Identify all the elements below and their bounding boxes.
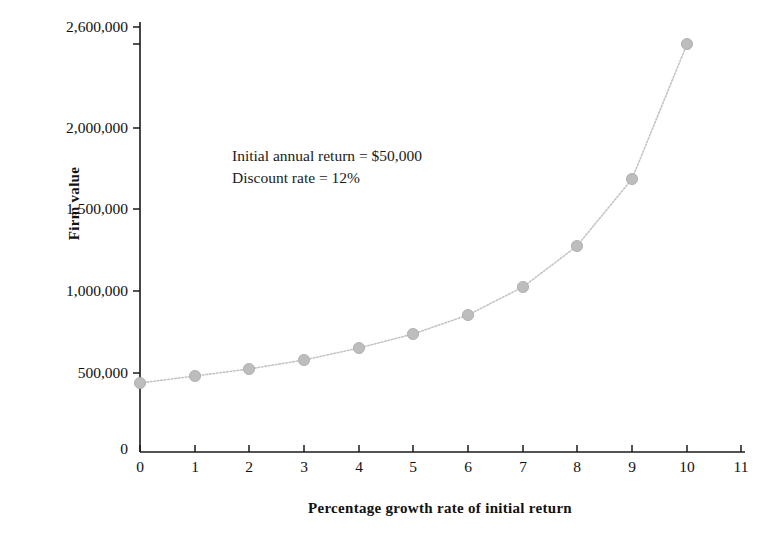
y-tick-label-1000000: 1,000,000 — [10, 282, 128, 300]
x-tick-label-1: 1 — [181, 458, 209, 476]
data-point — [517, 281, 528, 292]
data-point — [462, 309, 473, 320]
annotation-initial-return: Initial annual return = $50,000 — [232, 145, 422, 167]
x-axis-ticks — [140, 445, 741, 452]
x-tick-label-4: 4 — [345, 458, 373, 476]
x-tick-label-10: 10 — [671, 458, 703, 476]
data-point — [353, 342, 364, 353]
x-tick-label-7: 7 — [509, 458, 537, 476]
data-point — [189, 370, 200, 381]
x-tick-label-9: 9 — [618, 458, 646, 476]
y-tick-label-0: 0 — [10, 440, 128, 458]
data-point — [407, 328, 418, 339]
annotation-discount-rate: Discount rate = 12% — [232, 167, 422, 189]
data-point — [298, 354, 309, 365]
y-tick-label-500000: 500,000 — [10, 364, 128, 382]
y-tick-label-2000000: 2,000,000 — [10, 119, 128, 137]
chart-plot-area — [0, 0, 760, 542]
y-axis-ticks — [133, 27, 140, 373]
x-tick-label-3: 3 — [290, 458, 318, 476]
series-markers-firm-value — [134, 38, 692, 388]
data-point — [134, 377, 145, 388]
x-tick-label-0: 0 — [126, 458, 154, 476]
x-tick-label-8: 8 — [563, 458, 591, 476]
chart-figure: 2,600,000 2,000,000 1,500,000 1,000,000 … — [0, 0, 760, 542]
data-point — [243, 363, 254, 374]
data-point — [571, 240, 582, 251]
y-tick-label-2600000: 2,600,000 — [10, 18, 128, 36]
data-point — [681, 38, 692, 49]
chart-annotation: Initial annual return = $50,000 Discount… — [232, 145, 422, 190]
data-point — [626, 173, 637, 184]
x-tick-label-11: 11 — [726, 458, 756, 476]
y-axis-title: Firm value — [66, 144, 83, 264]
x-tick-label-2: 2 — [235, 458, 263, 476]
x-axis-title: Percentage growth rate of initial return — [140, 500, 740, 517]
x-tick-label-5: 5 — [399, 458, 427, 476]
x-tick-label-6: 6 — [454, 458, 482, 476]
